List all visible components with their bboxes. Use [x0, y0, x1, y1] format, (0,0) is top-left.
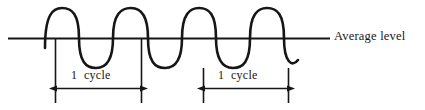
cycle-2-label: 1 cycle [218, 68, 258, 83]
cycle-1-label: 1 cycle [71, 68, 111, 83]
wave-diagram-canvas [0, 0, 425, 110]
wave-diagram: Average level 1 cycle 1 cycle [0, 0, 425, 110]
average-level-label: Average level [334, 29, 405, 44]
